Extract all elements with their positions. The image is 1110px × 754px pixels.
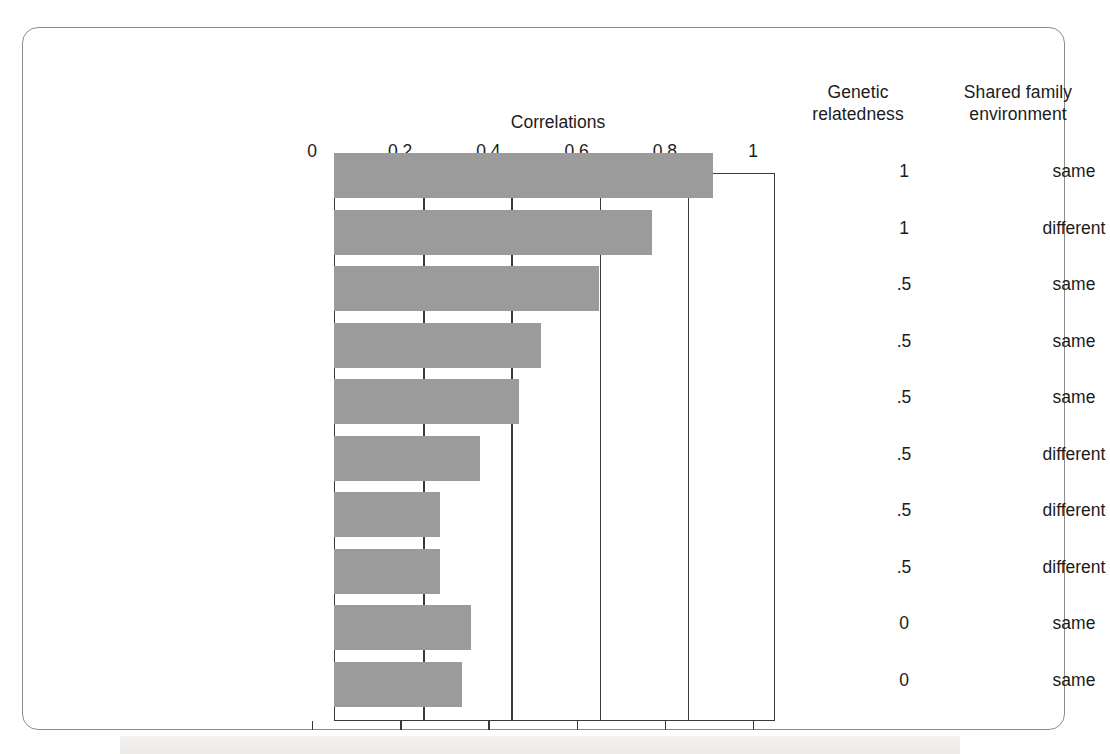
- cell-shared-environment-6: different: [994, 500, 1110, 521]
- bar-4: [334, 379, 519, 424]
- figure-panel: Genetic relatedness Shared family enviro…: [22, 27, 1065, 730]
- cell-genetic-relatedness-7: .5: [839, 557, 969, 578]
- cell-genetic-relatedness-0: 1: [839, 161, 969, 182]
- chart-row: Parent/child, reared apart.5different: [334, 544, 775, 601]
- cell-shared-environment-5: different: [994, 444, 1110, 465]
- bar-0: [334, 153, 713, 198]
- chart-row: Siblings, adoptive0same: [334, 600, 775, 657]
- cell-genetic-relatedness-9: 0: [839, 670, 969, 691]
- cell-genetic-relatedness-4: .5: [839, 387, 969, 408]
- chart-row: Identical twins, reared together1same: [334, 148, 775, 205]
- cell-shared-environment-1: different: [994, 218, 1110, 239]
- cell-genetic-relatedness-2: .5: [839, 274, 969, 295]
- chart-row: Parent/child, adoptive0same: [334, 657, 775, 714]
- cell-shared-environment-3: same: [994, 331, 1110, 352]
- cell-genetic-relatedness-5: .5: [839, 444, 969, 465]
- cell-shared-environment-2: same: [994, 274, 1110, 295]
- bar-3: [334, 323, 541, 368]
- cell-genetic-relatedness-3: .5: [839, 331, 969, 352]
- cell-shared-environment-9: same: [994, 670, 1110, 691]
- cell-shared-environment-8: same: [994, 613, 1110, 634]
- bar-2: [334, 266, 599, 311]
- chart-row: Parent/child, reared together.5same: [334, 374, 775, 431]
- page-bottom-band: [120, 736, 960, 754]
- bar-8: [334, 605, 471, 650]
- bar-1: [334, 210, 652, 255]
- bar-6: [334, 492, 440, 537]
- chart-row: Identical twins, reared apart1different: [334, 205, 775, 262]
- bar-rows: Identical twins, reared together1sameIde…: [23, 28, 1064, 729]
- chart-row: Fraternal twins, reared apart.5different: [334, 431, 775, 488]
- bar-5: [334, 436, 480, 481]
- bar-7: [334, 549, 440, 594]
- cell-genetic-relatedness-8: 0: [839, 613, 969, 634]
- chart-row: Fraternal twins, reared together.5same: [334, 261, 775, 318]
- cell-shared-environment-4: same: [994, 387, 1110, 408]
- cell-genetic-relatedness-1: 1: [839, 218, 969, 239]
- bar-9: [334, 662, 462, 707]
- chart-row: Siblings, reared apart.5different: [334, 487, 775, 544]
- cell-shared-environment-7: different: [994, 557, 1110, 578]
- chart-row: Siblings, reared together.5same: [334, 318, 775, 375]
- cell-genetic-relatedness-6: .5: [839, 500, 969, 521]
- cell-shared-environment-0: same: [994, 161, 1110, 182]
